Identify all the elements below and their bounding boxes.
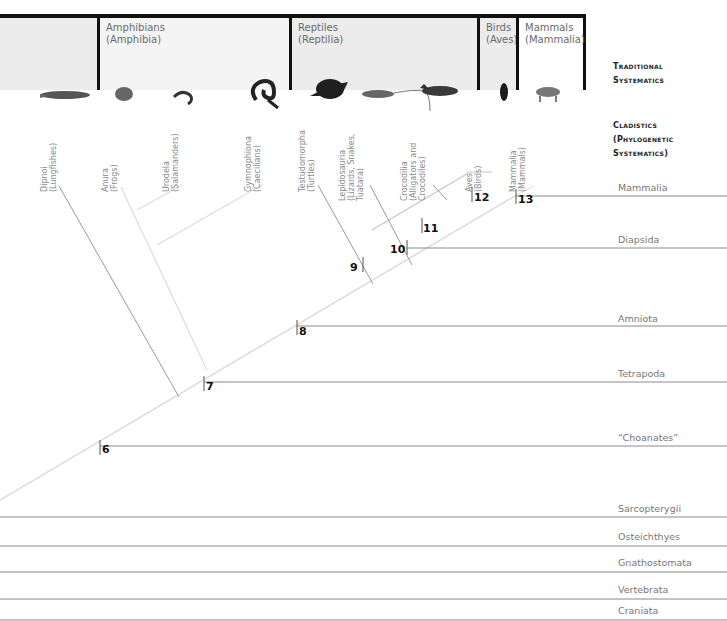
clade-label-tetrapoda: Tetrapoda <box>618 368 665 379</box>
node-8: 8 <box>299 325 307 338</box>
taxon-mammalia: Mammalia (Mammals) <box>509 147 527 192</box>
taxon-common: (Caecilians) <box>253 145 262 192</box>
node-11: 11 <box>423 222 438 235</box>
cladogram <box>0 0 727 621</box>
taxon-testudomorpha: Testudomorpha (Turtles) <box>298 130 316 192</box>
clade-label-amniota: Amniota <box>618 313 658 324</box>
taxon-urodela: Urodela (Salamanders) <box>162 133 180 192</box>
taxon-name: Mammalia <box>509 150 518 192</box>
taxon-name: Lepidosauria <box>338 150 347 201</box>
node-9: 9 <box>350 261 358 274</box>
taxon-common: (Alligators and Crocodiles) <box>409 143 427 201</box>
taxon-common: (Frogs) <box>110 164 119 192</box>
clade-label-gnathostomata: Gnathostomata <box>618 557 692 568</box>
taxon-common: (Mammals) <box>518 147 527 192</box>
taxon-dipnoi: Dipnoi (Lungfishes) <box>40 143 58 192</box>
taxon-common: (Lizards, Snakes, Tuatara) <box>347 134 365 201</box>
taxon-name: Dipnoi <box>40 166 49 192</box>
clade-label-choanates: “Choanates” <box>618 432 678 443</box>
node-6: 6 <box>102 443 110 456</box>
node-7: 7 <box>206 380 214 393</box>
clade-label-sarcopterygii: Sarcopterygii <box>618 503 681 514</box>
clade-label-vertebrata: Vertebrata <box>618 584 668 595</box>
node-12: 12 <box>474 191 489 204</box>
node-10: 10 <box>390 243 405 256</box>
taxon-common: (Salamanders) <box>171 133 180 192</box>
clade-label-craniata: Craniata <box>618 605 658 616</box>
taxon-common: (Turtles) <box>307 159 316 192</box>
taxon-name: Anura <box>101 168 110 192</box>
taxon-aves: Aves (Birds) <box>465 166 483 192</box>
taxon-lepidosauria: Lepidosauria (Lizards, Snakes, Tuatara) <box>338 134 365 201</box>
clade-label-osteichthyes: Osteichthyes <box>618 531 680 542</box>
taxon-anura: Anura (Frogs) <box>101 164 119 192</box>
clade-label-mammalia: Mammalia <box>618 182 667 193</box>
taxon-name: Testudomorpha <box>298 130 307 192</box>
taxon-crocodilia: Crocodilia (Alligators and Crocodiles) <box>400 143 427 201</box>
taxon-name: Urodela <box>162 161 171 192</box>
taxon-name: Aves <box>465 173 474 192</box>
taxon-name: Gymnophiona <box>244 136 253 192</box>
node-13: 13 <box>518 193 533 206</box>
taxon-gymnophiona: Gymnophiona (Caecilians) <box>244 136 262 192</box>
taxon-common: (Birds) <box>474 166 483 192</box>
clade-label-diapsida: Diapsida <box>618 234 659 245</box>
taxon-name: Crocodilia <box>400 161 409 201</box>
taxon-common: (Lungfishes) <box>49 143 58 192</box>
